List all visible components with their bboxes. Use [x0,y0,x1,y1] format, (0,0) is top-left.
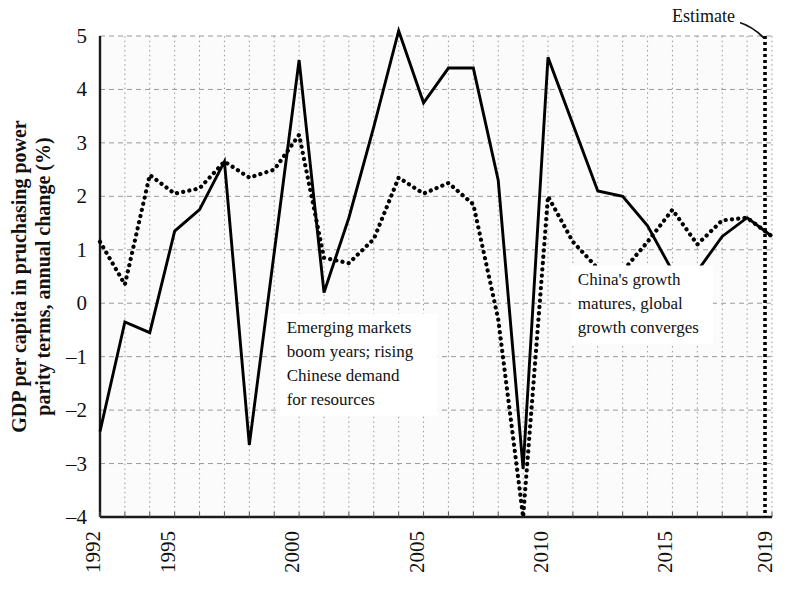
y-tick-label-neg1: –1 [65,345,87,369]
x-tick-label-2010: 2010 [529,531,553,573]
y-tick-label-neg2: –2 [65,398,87,422]
x-tick-label-2000: 2000 [280,531,304,573]
estimate-label: Estimate [672,6,735,26]
y-tick-label-0: 0 [77,291,88,315]
y-tick-label-1: 1 [77,238,88,262]
china-growth-note-line-2: matures, global [578,294,683,313]
x-tick-label-2019: 2019 [753,531,777,573]
y-tick-label-4: 4 [77,77,88,101]
y-tick-label-neg3: –3 [65,452,87,476]
gdp-per-capita-line-chart: Estimate –4–3–2–1012345 1992199520002005… [0,0,792,598]
x-tick-label-1992: 1992 [81,531,105,573]
emerging-markets-note-line-3: Chinese demand [287,366,400,385]
y-axis-tick-labels: –4–3–2–1012345 [65,24,88,529]
x-tick-label-1995: 1995 [156,531,180,573]
y-tick-label-5: 5 [77,24,88,48]
emerging-markets-note-line-1: Emerging markets [287,318,412,337]
x-tick-label-2015: 2015 [653,531,677,573]
y-axis-title-line-2: parity terms, annual change (%) [32,137,55,415]
china-growth-note-line-3: growth converges [578,318,699,337]
emerging-markets-note-line-2: boom years; rising [287,342,414,361]
y-tick-label-neg4: –4 [65,505,88,529]
x-tick-label-2005: 2005 [405,531,429,573]
y-tick-label-2: 2 [77,184,88,208]
chart-container: Estimate –4–3–2–1012345 1992199520002005… [0,0,792,598]
y-tick-label-3: 3 [77,131,88,155]
x-axis-tick-labels: 1992199520002005201020152019 [81,531,777,573]
china-growth-note-line-1: China's growth [578,270,681,289]
y-axis-title-line-1: GDP per capita in pruchasing power [8,120,31,433]
y-axis-title: GDP per capita in pruchasing powerparity… [8,120,55,433]
emerging-markets-note-line-4: for resources [287,390,375,409]
